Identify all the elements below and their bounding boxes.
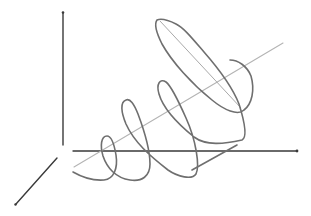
depth-axis (14, 158, 57, 206)
helix-axis-line (74, 43, 283, 167)
leaf-inner-line (160, 21, 241, 108)
tail-segment (192, 145, 237, 170)
vertical-axis (62, 11, 65, 145)
diagram-canvas (0, 0, 311, 216)
helix-spiral (73, 19, 253, 180)
horizontal-axis (73, 150, 298, 153)
